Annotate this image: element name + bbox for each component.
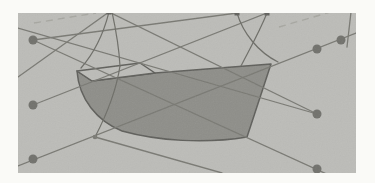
- figure-container: [0, 0, 375, 183]
- scan-grain-overlay: [18, 13, 356, 173]
- figure-content: [18, 9, 356, 176]
- ship-hull-wireframe-figure: [0, 0, 375, 183]
